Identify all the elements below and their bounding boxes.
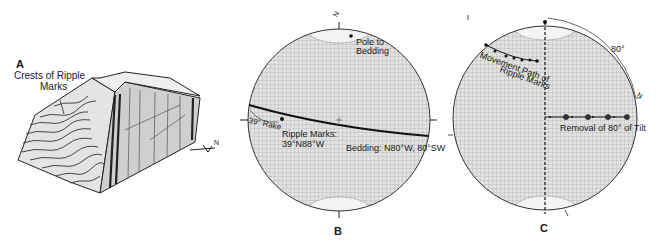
north-label-b: N bbox=[332, 10, 341, 18]
panel-letter-c: C bbox=[540, 222, 548, 234]
north-arrow-label: N bbox=[214, 137, 219, 148]
pole-to-bedding-point bbox=[349, 34, 353, 38]
panel-a-block-diagram: A Crests of Ripple Marks N bbox=[0, 0, 230, 246]
pole-label-line2: Bedding bbox=[356, 46, 389, 57]
crests-label-line1: Crests of Ripple bbox=[14, 70, 85, 81]
panel-letter-b: B bbox=[334, 225, 342, 237]
north-arrow-icon bbox=[190, 145, 215, 152]
crests-label-line2: Marks bbox=[40, 81, 67, 92]
panel-c-stereonet: N 80° Movement Path of Ripple Marks Remo… bbox=[440, 0, 658, 246]
angle-label: 80° bbox=[611, 44, 625, 55]
ripple-label-line2: 39°N88°W bbox=[282, 139, 324, 150]
bedding-label: Bedding: N80°W, 80°SW bbox=[346, 143, 445, 154]
ripple-marks-point bbox=[280, 117, 284, 121]
panel-letter-a: A bbox=[16, 58, 24, 70]
rock-block-illustration bbox=[0, 0, 230, 246]
removal-label: Removal of 80° of Tilt bbox=[560, 123, 646, 134]
panel-b-stereonet: N Pole to Bedding 39° Rake Ripple Marks:… bbox=[230, 0, 440, 246]
